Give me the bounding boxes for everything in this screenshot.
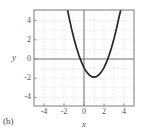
y-tick-label-4: 4 — [17, 17, 31, 25]
y-axis-title: y — [8, 53, 20, 62]
figure-panel: 4 2 0 -2 -4 -4 -2 0 2 4 y x (b) — [0, 0, 141, 135]
x-axis-title: x — [78, 120, 90, 129]
y-tick-label-neg4: -4 — [17, 93, 31, 101]
x-tick-label-2: 2 — [96, 108, 112, 116]
x-tick-label-4: 4 — [116, 108, 132, 116]
x-tick-label-0: 0 — [76, 108, 92, 116]
x-tick-label-neg4: -4 — [36, 108, 52, 116]
y-tick-label-2: 2 — [17, 36, 31, 44]
y-tick-label-neg2: -2 — [17, 74, 31, 82]
panel-label: (b) — [3, 117, 14, 126]
x-tick-label-neg2: -2 — [56, 108, 72, 116]
